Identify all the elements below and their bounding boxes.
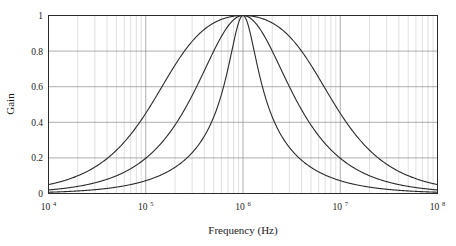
x-tick-label: 10	[333, 202, 343, 212]
x-tick-exponent: 5	[150, 200, 153, 207]
x-tick-label: 10	[41, 202, 51, 212]
y-axis-title: Gain	[4, 93, 16, 115]
y-tick-label: 0	[38, 189, 43, 199]
y-tick-label: 1	[38, 11, 43, 21]
y-tick-label: 0.4	[31, 118, 43, 128]
x-tick-label: 10	[138, 202, 148, 212]
y-tick-label: 0.8	[31, 47, 43, 57]
y-tick-label: 0.2	[31, 153, 43, 163]
x-tick-label: 10	[235, 202, 245, 212]
x-tick-exponent: 8	[442, 200, 445, 207]
x-axis-title: Frequency (Hz)	[208, 224, 278, 237]
x-tick-label: 10	[430, 202, 440, 212]
y-tick-label: 0.6	[31, 82, 43, 92]
gain-vs-frequency-chart: 104105106107108 00.20.40.60.81 Frequency…	[0, 0, 456, 246]
